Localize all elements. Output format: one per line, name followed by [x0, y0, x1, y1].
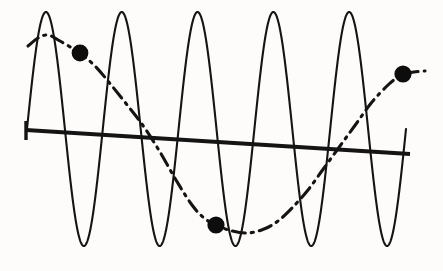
marker-bottom — [207, 216, 224, 233]
plot-canvas — [0, 0, 443, 271]
marker-left — [72, 45, 89, 62]
figure-root — [0, 0, 443, 271]
marker-right — [394, 65, 411, 82]
